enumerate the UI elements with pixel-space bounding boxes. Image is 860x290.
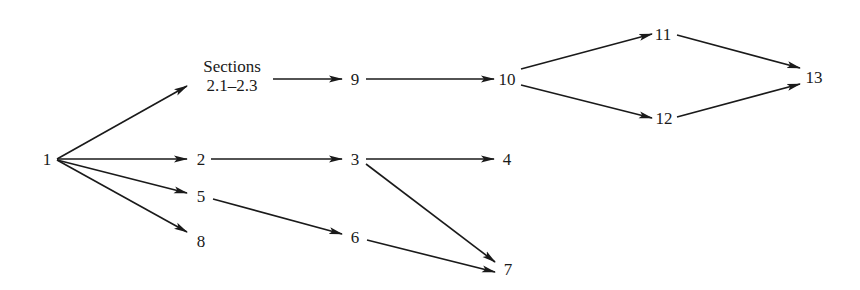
edge-5-to-6 bbox=[213, 199, 342, 234]
edge-1-to-8 bbox=[57, 160, 187, 232]
node-5: 5 bbox=[197, 187, 206, 206]
node-2: 2 bbox=[197, 150, 206, 169]
edge-10-to-12 bbox=[521, 85, 652, 118]
node-4: 4 bbox=[503, 150, 512, 169]
edge-6-to-7 bbox=[367, 240, 495, 272]
node-6: 6 bbox=[351, 228, 360, 247]
node-7: 7 bbox=[504, 260, 513, 279]
edge-11-to-13 bbox=[677, 35, 800, 68]
edge-1-to-5 bbox=[57, 160, 187, 193]
node-3: 3 bbox=[351, 150, 360, 169]
edges bbox=[57, 34, 800, 272]
dependency-diagram: 1 Sections 2.1–2.3 2 5 8 9 3 6 10 4 7 11… bbox=[0, 0, 860, 290]
edge-12-to-13 bbox=[677, 84, 800, 117]
edge-10-to-11 bbox=[521, 34, 652, 69]
edge-1-to-sections bbox=[57, 86, 187, 159]
node-11: 11 bbox=[655, 25, 671, 44]
node-1: 1 bbox=[43, 150, 52, 169]
node-sections-range: 2.1–2.3 bbox=[207, 76, 258, 95]
node-8: 8 bbox=[197, 232, 206, 251]
node-9: 9 bbox=[351, 70, 360, 89]
node-sections-title: Sections bbox=[203, 57, 261, 76]
node-10: 10 bbox=[499, 70, 516, 89]
node-13: 13 bbox=[806, 68, 823, 87]
node-12: 12 bbox=[656, 109, 673, 128]
edge-3-to-7 bbox=[366, 164, 495, 262]
nodes: 1 Sections 2.1–2.3 2 5 8 9 3 6 10 4 7 11… bbox=[43, 25, 823, 279]
